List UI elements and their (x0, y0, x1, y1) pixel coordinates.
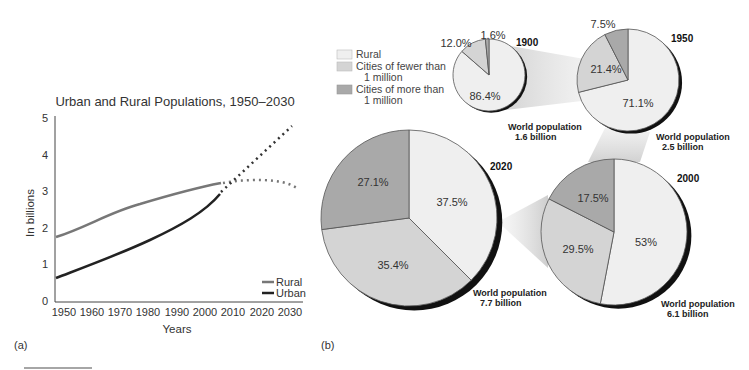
pie-2020-rural-pct: 37.5% (436, 196, 467, 208)
panel-b-label: (b) (321, 339, 334, 351)
pie-legend: Rural Cities of fewer than 1 million Cit… (337, 48, 446, 106)
svg-text:5: 5 (42, 112, 48, 124)
y-tick-labels: 0 1 2 3 4 5 (42, 112, 48, 307)
svg-text:2030: 2030 (278, 306, 302, 318)
svg-text:2020: 2020 (250, 306, 274, 318)
urban-line (56, 194, 220, 278)
pie-charts: Rural Cities of fewer than 1 million Cit… (321, 18, 735, 351)
legend-swatch-rural (337, 50, 352, 59)
line-legend: Rural Urban (262, 276, 306, 299)
figure: Urban and Rural Populations, 1950–2030 0… (0, 0, 749, 370)
svg-text:1970: 1970 (108, 306, 132, 318)
pie-2000-large-pct: 17.5% (577, 192, 608, 204)
pie-1950-small-pct: 21.4% (590, 63, 621, 75)
pie-2000-population-1: World population (661, 299, 735, 309)
pie-2020 (321, 130, 502, 310)
x-tick-labels: 1950 1960 1970 1980 1990 2000 2010 2020 … (52, 306, 302, 318)
pie-2020-population-1: World population (473, 288, 547, 298)
line-chart: Urban and Rural Populations, 1950–2030 0… (14, 94, 306, 368)
pie-2000-rural-pct: 53% (635, 236, 657, 248)
legend-swatch-small-cities (337, 62, 352, 71)
pie-2000-year: 2000 (677, 173, 700, 184)
pie-1950-population-1: World population (656, 132, 730, 142)
svg-text:1980: 1980 (136, 306, 160, 318)
svg-text:1: 1 (42, 258, 48, 270)
pie-1950-large-pct: 7.5% (590, 18, 615, 30)
pie-1900-small-pct: 12.0% (440, 37, 471, 49)
pie-2020-population-2: 7.7 billion (480, 298, 522, 308)
pie-1900-year: 1900 (516, 37, 539, 48)
pie-1950-population-2: 2.5 billion (662, 142, 704, 152)
panel-a-label: (a) (14, 339, 27, 351)
svg-text:1990: 1990 (165, 306, 189, 318)
svg-text:0: 0 (42, 295, 48, 307)
rural-line (56, 183, 221, 237)
svg-text:2010: 2010 (221, 306, 245, 318)
pie-2020-small-pct: 35.4% (377, 259, 408, 271)
pie-2020-year: 2020 (490, 161, 513, 172)
line-chart-title: Urban and Rural Populations, 1950–2030 (55, 94, 294, 109)
rural-projected-line (223, 180, 297, 188)
urban-projected-line (221, 126, 292, 192)
legend-label-urban: Urban (276, 287, 306, 299)
pie-1900-population-2: 1.6 billion (515, 132, 557, 142)
pie-1950 (577, 29, 682, 134)
y-axis-label: In billions (24, 189, 36, 237)
svg-text:4: 4 (42, 149, 48, 161)
svg-text:1950: 1950 (52, 306, 76, 318)
pie-2020-large-pct: 27.1% (357, 176, 388, 188)
svg-text:2: 2 (42, 222, 48, 234)
connector-2000-2020 (498, 195, 548, 268)
pie-2000-small-pct: 29.5% (562, 243, 593, 255)
pie-1950-year: 1950 (671, 33, 694, 44)
legend-label-small-cities-2: 1 million (364, 71, 403, 83)
svg-text:3: 3 (42, 185, 48, 197)
legend-swatch-large-cities (337, 85, 352, 94)
pie-2000 (541, 159, 691, 309)
svg-text:2000: 2000 (193, 306, 217, 318)
legend-label-rural: Rural (356, 48, 381, 60)
connector-1950-2000 (588, 128, 650, 162)
x-axis-label: Years (163, 323, 192, 335)
pie-1900-population-1: World population (508, 122, 582, 132)
svg-text:1960: 1960 (80, 306, 104, 318)
legend-label-large-cities-2: 1 million (364, 94, 403, 106)
pie-1950-rural-pct: 71.1% (622, 97, 653, 109)
pie-1900-rural-pct: 86.4% (469, 90, 500, 102)
pie-1900-large-pct: 1.6% (480, 29, 505, 41)
pie-2000-population-2: 6.1 billion (667, 309, 709, 319)
